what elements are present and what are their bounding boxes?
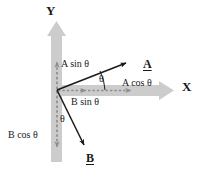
axis-label-x: X — [182, 80, 191, 93]
label-a-sin-theta: A sin θ — [61, 59, 89, 69]
label-a-cos-theta: A cos θ — [122, 78, 152, 88]
label-vector-a: A — [143, 58, 152, 70]
label-vector-b: B — [86, 152, 94, 164]
label-b-sin-theta: B sin θ — [71, 97, 99, 107]
label-theta-a: θ — [99, 74, 104, 84]
label-theta-b: θ — [60, 114, 65, 124]
axis-label-y: Y — [46, 4, 55, 17]
label-b-cos-theta: B cos θ — [8, 130, 38, 140]
vector-diagram: Y X A sin θ A cos θ B sin θ B cos θ A B … — [0, 0, 204, 174]
diagram-canvas — [0, 0, 204, 174]
